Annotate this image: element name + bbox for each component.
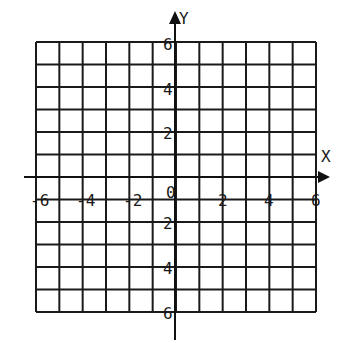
y-tick-label: 4 [163,259,173,278]
x-tick-label: 4 [264,191,274,210]
coordinate-plane: X Y -6 -4 -2 0 2 4 6 6 4 2 2 4 6 [0,0,340,343]
x-axis-arrow-icon [318,171,330,183]
y-tick-label: 4 [163,80,173,99]
x-tick-label: 2 [218,191,228,210]
x-axis-label: X [321,147,331,166]
y-tick-label: 2 [163,214,173,233]
x-tick-label: -6 [30,191,49,210]
x-tick-label: 6 [311,191,321,210]
x-tick-label: -4 [76,191,95,210]
y-tick-label: 2 [163,124,173,143]
y-axis-label: Y [179,9,189,28]
y-tick-label: 6 [163,35,173,54]
x-tick-label: -2 [123,191,142,210]
x-tick-label: 0 [166,183,176,202]
y-tick-label: 6 [163,304,173,323]
